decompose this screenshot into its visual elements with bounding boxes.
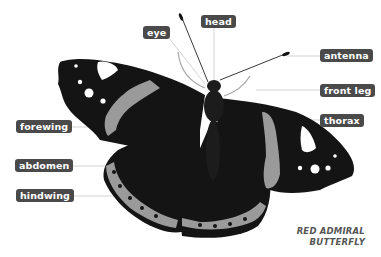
label-abdomen: abdomen (15, 159, 73, 172)
label-antenna: antenna (320, 49, 373, 62)
label-front-leg: front leg (320, 84, 375, 97)
label-eye: eye (143, 26, 170, 39)
caption-line-1: RED ADMIRAL (297, 226, 365, 237)
abdomen-shape (206, 120, 220, 180)
label-hindwing: hindwing (16, 189, 74, 202)
label-forewing: forewing (16, 120, 72, 133)
thorax-shape (204, 90, 224, 122)
caption-line-2: BUTTERFLY (297, 237, 365, 248)
diagram-caption: RED ADMIRAL BUTTERFLY (297, 226, 365, 248)
label-thorax: thorax (320, 114, 364, 127)
label-head: head (201, 15, 236, 28)
